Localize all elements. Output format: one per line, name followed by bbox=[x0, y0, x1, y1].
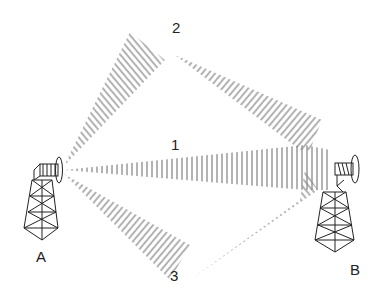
tower-b-label: B bbox=[350, 262, 360, 277]
path-2-label: 2 bbox=[172, 20, 180, 35]
multipath-diagram: 1 2 3 A B bbox=[0, 0, 377, 303]
path-1-label: 1 bbox=[171, 137, 179, 152]
diagram-graphic bbox=[0, 0, 377, 303]
path-3-label: 3 bbox=[170, 268, 178, 283]
tower-a-icon bbox=[24, 157, 63, 240]
beam-path-2 bbox=[64, 32, 322, 166]
beam-path-1 bbox=[64, 145, 330, 190]
tower-a-label: A bbox=[36, 249, 46, 264]
